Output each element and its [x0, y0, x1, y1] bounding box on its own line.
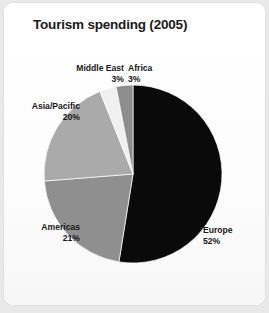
chart-card-surface: Tourism spending (2005) Middle East 3% A…	[4, 3, 265, 305]
pie-label-middle-east-name: Middle East	[66, 63, 124, 74]
pie-chart	[4, 3, 265, 305]
pie-label-africa: Africa 3%	[128, 63, 168, 84]
pie-label-africa-name: Africa	[128, 63, 168, 74]
pie-label-middle-east-value: 3%	[66, 74, 124, 85]
pie-label-asia-pacific: Asia/Pacific 20%	[14, 101, 80, 122]
screenshot-root: Tourism spending (2005) Middle East 3% A…	[0, 0, 269, 313]
chart-card: Tourism spending (2005) Middle East 3% A…	[4, 3, 265, 305]
pie-label-asia-pacific-name: Asia/Pacific	[14, 101, 80, 112]
pie-chart-svg	[4, 3, 265, 305]
pie-label-middle-east: Middle East 3%	[66, 63, 124, 84]
pie-label-africa-value: 3%	[128, 74, 168, 85]
pie-label-europe: Europe 52%	[203, 225, 263, 246]
pie-slice-americas	[44, 174, 133, 262]
pie-label-americas: Americas 21%	[14, 222, 80, 243]
pie-label-americas-name: Americas	[14, 222, 80, 233]
pie-label-americas-value: 21%	[14, 233, 80, 244]
pie-label-europe-name: Europe	[203, 225, 263, 236]
pie-label-asia-pacific-value: 20%	[14, 112, 80, 123]
pie-label-europe-value: 52%	[203, 236, 263, 247]
